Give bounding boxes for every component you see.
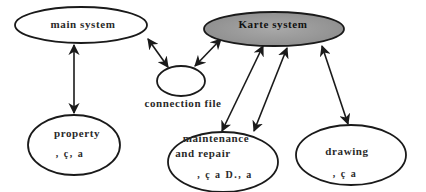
property-sublabel: , ç, a [56, 148, 84, 159]
edge-karte-drawing [322, 46, 348, 124]
node-drawing[interactable]: drawing , ç a [296, 125, 406, 185]
connection-file-ellipse [157, 66, 205, 96]
edge-karte-maintenance-2 [254, 48, 287, 131]
property-ellipse [28, 115, 120, 175]
drawing-label: drawing [325, 145, 368, 157]
edge-karte-maintenance-1 [222, 46, 263, 131]
drawing-sublabel: , ç a [333, 168, 357, 179]
property-label: property [54, 127, 100, 139]
node-karte-system[interactable]: Karte system [204, 12, 344, 46]
node-maintenance-repair[interactable]: maintenance and repair , ç a D., a [168, 132, 278, 192]
node-main-system[interactable]: main system [15, 7, 147, 43]
karte-system-label: Karte system [238, 18, 307, 30]
maintenance-sublabel: , ç a D., a [197, 169, 253, 180]
main-system-label: main system [51, 18, 116, 30]
edge-karte-connection [195, 39, 221, 66]
edge-main-connection [148, 39, 168, 67]
diagram-canvas: main system Karte system connection file… [0, 0, 426, 192]
node-property[interactable]: property , ç, a [28, 115, 120, 175]
edges [74, 39, 348, 131]
node-connection-file[interactable]: connection file [144, 66, 221, 109]
connection-file-label: connection file [144, 97, 221, 109]
maintenance-label-line2: and repair [175, 147, 231, 159]
maintenance-label-line1: maintenance [183, 132, 249, 144]
